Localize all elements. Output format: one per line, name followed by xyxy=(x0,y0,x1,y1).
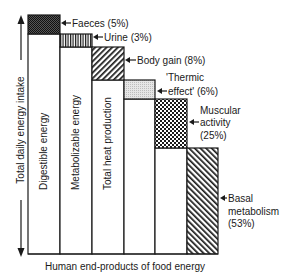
column-label-total-heat: Total heat production xyxy=(102,97,113,190)
body-gain-box xyxy=(92,47,124,80)
basal-label-line2: metabolism xyxy=(228,206,279,217)
muscular-arrow-icon xyxy=(189,119,199,125)
faeces-box xyxy=(28,15,60,34)
basal-label-line1: Basal xyxy=(228,193,253,204)
column-label-metabolizable: Metabolizable energy xyxy=(70,95,81,190)
urine-box xyxy=(60,34,92,47)
faeces-arrow-icon xyxy=(61,20,71,26)
thermic-arrow-icon xyxy=(157,88,167,94)
basal-metabolism-box xyxy=(187,148,218,254)
basal-label-line3: (53%) xyxy=(228,218,255,229)
arrow-up-icon xyxy=(18,15,25,24)
column-label-digestible: Digestible energy xyxy=(38,113,49,190)
arrow-down-icon xyxy=(18,248,25,257)
total-intake-axis: Total daily energy intake xyxy=(15,15,26,257)
body-gain-label: Body gain (8%) xyxy=(137,55,205,66)
energy-partition-diagram: Total daily energy intake Digestible ene… xyxy=(0,0,302,280)
urine-label: Urine (3%) xyxy=(104,32,152,43)
muscular-activity-box xyxy=(155,99,187,148)
faeces-label: Faeces (5%) xyxy=(72,18,129,29)
axis-label: Total daily energy intake xyxy=(15,76,26,184)
figure-caption: Human end-products of food energy xyxy=(45,261,205,272)
muscular-label-line3: (25%) xyxy=(200,130,227,141)
thermic-label-line1: 'Thermic xyxy=(166,72,204,83)
column-after-thermic xyxy=(124,99,155,254)
thermic-label-line2: effect' (6%) xyxy=(168,86,218,97)
urine-arrow-icon xyxy=(93,34,103,40)
muscular-label-line2: activity xyxy=(200,117,231,128)
thermic-effect-box xyxy=(124,80,155,99)
column-after-muscular xyxy=(155,148,187,254)
muscular-label-line1: Muscular xyxy=(200,105,241,116)
basal-arrow-icon xyxy=(220,195,227,201)
body-gain-arrow-icon xyxy=(125,57,136,63)
